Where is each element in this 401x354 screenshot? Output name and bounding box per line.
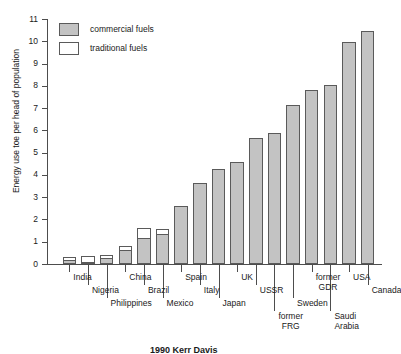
bar-former-gdr bbox=[305, 90, 318, 264]
bar-segment-traditional bbox=[119, 246, 132, 250]
bar-segment-commercial bbox=[137, 238, 150, 264]
x-label-line: China bbox=[129, 272, 151, 282]
y-tick-label-6: 6 bbox=[18, 126, 38, 135]
bar-segment-commercial bbox=[193, 183, 206, 264]
bar-nigeria bbox=[81, 256, 94, 264]
bar-india bbox=[63, 257, 76, 264]
filled-grey-square-icon bbox=[59, 23, 79, 36]
bar-former-frg bbox=[268, 133, 281, 264]
x-label-line: Philippines bbox=[111, 298, 152, 308]
bar-segment-commercial bbox=[324, 85, 337, 264]
x-tick-former-gdr bbox=[312, 264, 313, 272]
x-tick-sweden bbox=[293, 264, 294, 298]
y-tick-label-5: 5 bbox=[18, 148, 38, 157]
bar-segment-commercial bbox=[230, 162, 243, 264]
x-label-line: former bbox=[316, 272, 341, 282]
bar-philippines bbox=[100, 255, 113, 264]
bar-sweden bbox=[286, 105, 299, 264]
bar-segment-commercial bbox=[174, 206, 187, 264]
bar-segment-traditional bbox=[137, 228, 150, 239]
y-tick-label-8: 8 bbox=[18, 81, 38, 90]
legend-item-commercial-fuels: commercial fuels bbox=[59, 20, 154, 39]
bar-canada bbox=[361, 31, 374, 264]
bar-usa bbox=[342, 42, 355, 264]
bar-segment-commercial bbox=[212, 169, 225, 264]
x-axis-line bbox=[47, 264, 382, 265]
x-tick-india bbox=[69, 264, 70, 272]
y-tick-8 bbox=[42, 86, 48, 87]
x-tick-china bbox=[125, 264, 126, 272]
legend: commercial fuels traditional fuels bbox=[59, 20, 154, 58]
y-tick-9 bbox=[42, 64, 48, 65]
bar-segment-commercial bbox=[156, 234, 169, 264]
y-tick-label-2: 2 bbox=[18, 215, 38, 224]
x-tick-spain bbox=[181, 264, 182, 272]
bar-china bbox=[119, 246, 132, 264]
legend-label-traditional-fuels: traditional fuels bbox=[90, 44, 147, 53]
x-tick-usa bbox=[349, 264, 350, 272]
y-tick-4 bbox=[42, 175, 48, 176]
y-tick-11 bbox=[42, 19, 48, 20]
bar-segment-commercial bbox=[342, 42, 355, 264]
y-tick-label-1: 1 bbox=[18, 237, 38, 246]
bar-italy bbox=[193, 183, 206, 264]
bar-segment-commercial bbox=[305, 90, 318, 264]
x-label-line: FRG bbox=[278, 321, 303, 331]
y-tick-7 bbox=[42, 108, 48, 109]
y-tick-6 bbox=[42, 130, 48, 131]
y-axis-line bbox=[47, 19, 48, 265]
bar-saudi-arabia bbox=[324, 85, 337, 264]
x-label-line: Mexico bbox=[167, 298, 194, 308]
empty-white-square-icon bbox=[59, 42, 79, 55]
x-label-line: Nigeria bbox=[92, 285, 119, 295]
bar-spain bbox=[174, 206, 187, 264]
y-tick-0 bbox=[42, 264, 48, 265]
bar-segment-commercial bbox=[249, 138, 262, 264]
x-label-line: Spain bbox=[185, 272, 207, 282]
bar-ussr bbox=[249, 138, 262, 264]
y-tick-2 bbox=[42, 219, 48, 220]
x-label-line: Italy bbox=[204, 285, 220, 295]
y-tick-10 bbox=[42, 41, 48, 42]
legend-item-traditional-fuels: traditional fuels bbox=[59, 39, 154, 58]
y-tick-label-3: 3 bbox=[18, 193, 38, 202]
y-tick-label-10: 10 bbox=[18, 37, 38, 46]
bar-segment-commercial bbox=[286, 105, 299, 264]
x-label-line: Brazil bbox=[148, 285, 169, 295]
y-tick-5 bbox=[42, 153, 48, 154]
x-label-line: Saudi bbox=[334, 311, 359, 321]
bar-segment-traditional bbox=[100, 255, 113, 260]
y-tick-label-4: 4 bbox=[18, 170, 38, 179]
x-tick-uk bbox=[237, 264, 238, 272]
x-label-line: former bbox=[278, 311, 303, 321]
bar-segment-commercial bbox=[268, 133, 281, 264]
bar-brazil bbox=[137, 228, 150, 264]
bar-segment-traditional bbox=[63, 257, 76, 261]
x-label-line: Arabia bbox=[334, 321, 359, 331]
x-label-line: Sweden bbox=[297, 298, 328, 308]
y-tick-label-0: 0 bbox=[18, 260, 38, 269]
bar-mexico bbox=[156, 229, 169, 264]
x-label-line: Japan bbox=[223, 298, 246, 308]
bar-segment-commercial bbox=[361, 31, 374, 264]
y-tick-label-9: 9 bbox=[18, 59, 38, 68]
x-label-line: USA bbox=[353, 272, 370, 282]
x-label-line: UK bbox=[241, 272, 253, 282]
y-tick-label-11: 11 bbox=[18, 15, 38, 24]
x-label-line: GDR bbox=[316, 282, 341, 292]
bar-segment-commercial bbox=[119, 250, 132, 264]
bar-segment-traditional bbox=[156, 229, 169, 234]
x-label-line: India bbox=[73, 272, 91, 282]
y-tick-label-7: 7 bbox=[18, 104, 38, 113]
bar-uk bbox=[230, 162, 243, 264]
bar-segment-traditional bbox=[81, 256, 94, 263]
x-label-line: Canada bbox=[372, 285, 401, 295]
figure-caption-text: 1990 Kerr Davis bbox=[150, 345, 395, 354]
x-tick-ussr bbox=[256, 264, 257, 285]
x-label-line: USSR bbox=[260, 285, 284, 295]
y-tick-3 bbox=[42, 197, 48, 198]
figure-caption: 1990 Kerr Davis bbox=[150, 345, 395, 354]
bar-japan bbox=[212, 169, 225, 264]
y-tick-1 bbox=[42, 242, 48, 243]
